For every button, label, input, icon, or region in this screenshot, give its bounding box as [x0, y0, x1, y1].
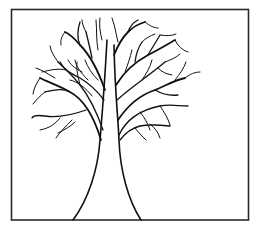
- tree-branches-right: [112, 18, 200, 140]
- tree-illustration: [0, 0, 257, 226]
- picture-frame: [12, 10, 249, 221]
- tree-branches-left: [32, 18, 105, 140]
